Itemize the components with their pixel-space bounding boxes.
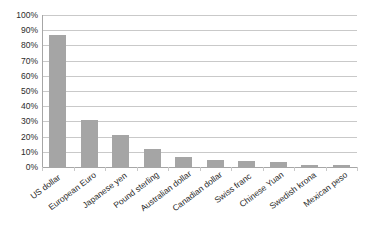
bar-chart: 0%10%20%30%40%50%60%70%80%90%100% US dol… (0, 0, 367, 241)
x-axis-category-labels: US dollarEuropean EuroJapanese yenPound … (0, 0, 367, 241)
